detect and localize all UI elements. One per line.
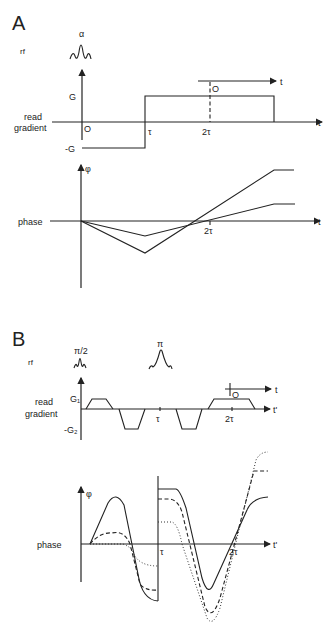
panel-b-gradient-label-2: gradient	[25, 409, 58, 419]
panel-a-phase-t: t	[318, 217, 321, 227]
panel-b-phase-t-prime: t'	[273, 540, 278, 550]
panel-b-label: B	[12, 328, 25, 350]
panel-a-g-neg: -G	[65, 144, 75, 154]
panel-b-rf-label: rf	[28, 358, 34, 367]
panel-b-t-prime: t'	[273, 405, 278, 415]
panel-b-phase-label: phase	[37, 540, 62, 550]
panel-b-g2: -G₂	[64, 425, 78, 435]
panel-b-rf-pulse-90	[74, 359, 86, 369]
panel-a-g-pos: G	[69, 92, 76, 102]
panel-b-g1: G₁	[70, 394, 80, 404]
panel-a-gradient-label-1: read	[24, 112, 42, 122]
panel-a-tau: τ	[148, 127, 152, 137]
panel-b-two-tau: 2τ	[225, 414, 234, 424]
panel-b-tau: τ	[156, 414, 160, 424]
panel-a-echo-t: t	[280, 77, 283, 87]
panel-b-pulse2-label: π	[157, 339, 163, 349]
panel-b-echo-origin: O	[232, 390, 239, 400]
panel-b-rf-pulse-180	[149, 350, 172, 369]
panel-b-pulse1-label: π/2	[74, 346, 88, 356]
panel-a-phase-label: phase	[18, 217, 43, 227]
panel-a-phase-two-tau: 2τ	[204, 226, 213, 236]
panel-a-t-label: t	[318, 118, 321, 128]
panel-b-phase-two-tau: 2τ	[229, 547, 238, 557]
panel-a-phi: φ	[85, 164, 91, 174]
panel-b-phase-tau: τ	[160, 547, 164, 557]
panel-b-phase-curve-dotted	[90, 452, 268, 621]
panel-a-gradient-label-2: gradient	[14, 123, 47, 133]
panel-a-rf-pulse	[70, 45, 91, 59]
panel-a-phase-line-small	[81, 204, 295, 236]
panel-a-echo-origin: O	[212, 84, 219, 94]
panel-a-label: A	[12, 12, 26, 34]
pulse-sequence-diagram: A rf α t read gradient G -G O τ 2τ O t φ…	[0, 0, 327, 632]
panel-b-echo-t: t	[275, 385, 278, 395]
panel-b-phi: φ	[86, 489, 92, 499]
panel-a-alpha-label: α	[79, 29, 84, 39]
panel-a-two-tau: 2τ	[202, 127, 211, 137]
panel-b-gradient-label-1: read	[35, 397, 53, 407]
panel-a-rf-label: rf	[20, 47, 26, 56]
panel-b-phase-curve-solid	[90, 489, 268, 601]
panel-a-origin: O	[84, 124, 91, 134]
panel-a-phase-line-large	[81, 170, 294, 253]
